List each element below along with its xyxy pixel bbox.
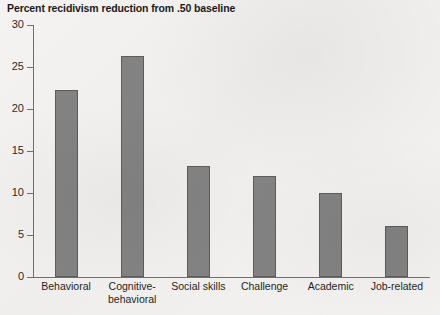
bar xyxy=(55,90,78,277)
x-axis-label: Challenge xyxy=(232,280,298,293)
y-axis-tick: 20 xyxy=(27,109,33,110)
x-axis-label: Behavioral xyxy=(33,280,99,293)
x-axis-label: Cognitive- behavioral xyxy=(99,280,165,305)
y-axis-tick: 30 xyxy=(27,25,33,26)
x-axis-label: Job-related xyxy=(364,280,430,293)
y-axis-line xyxy=(33,25,34,278)
y-axis-tick-label: 10 xyxy=(12,186,24,199)
y-axis-tick-label: 0 xyxy=(18,270,24,283)
y-axis-tick: 0 xyxy=(27,277,33,278)
x-axis-label: Social skills xyxy=(165,280,231,293)
y-axis-tick-label: 30 xyxy=(12,18,24,31)
y-axis-tick: 10 xyxy=(27,193,33,194)
y-axis-tick: 15 xyxy=(27,151,33,152)
x-axis-line xyxy=(33,277,430,278)
bar xyxy=(187,166,210,277)
x-axis-label: Academic xyxy=(298,280,364,293)
y-axis-tick-label: 25 xyxy=(12,60,24,73)
chart-title: Percent recidivism reduction from .50 ba… xyxy=(7,2,235,14)
y-axis-tick-label: 5 xyxy=(18,228,24,241)
y-axis-tick-label: 15 xyxy=(12,144,24,157)
bar xyxy=(253,176,276,277)
y-axis-tick-label: 20 xyxy=(12,102,24,115)
y-axis-tick: 25 xyxy=(27,67,33,68)
bar xyxy=(319,193,342,277)
bar xyxy=(385,226,408,277)
bar xyxy=(121,56,144,277)
bar-chart: Percent recidivism reduction from .50 ba… xyxy=(0,0,440,315)
y-axis-tick: 5 xyxy=(27,235,33,236)
